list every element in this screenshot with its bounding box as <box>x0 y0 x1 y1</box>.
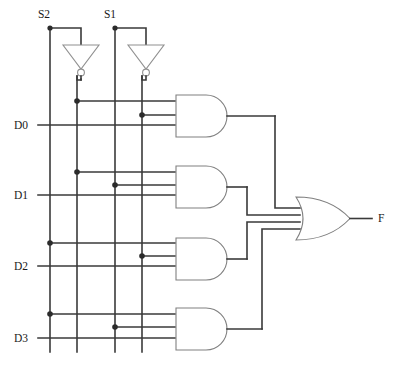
inverter-s2-triangle <box>63 45 99 69</box>
inverter-s1 <box>128 45 164 80</box>
junction-and2-s2c <box>74 169 80 175</box>
or-gate-body <box>296 197 350 240</box>
junction-s2-tap <box>47 25 52 30</box>
logic-diagram-svg: S2 S1 D0 D1 D2 D3 <box>0 0 393 368</box>
and-gate-1-body <box>176 95 227 137</box>
and-gate-4-body <box>176 308 227 350</box>
wire-s1-to-inverter <box>115 28 146 45</box>
label-select-s1: S1 <box>104 8 116 20</box>
junction-s1-tap <box>112 25 117 30</box>
inverter-s2 <box>63 45 99 80</box>
label-data-d3: D3 <box>14 332 28 344</box>
wire-and4-to-or <box>262 229 300 329</box>
wire-s2-to-inverter <box>50 28 81 45</box>
label-data-d0: D0 <box>14 119 28 131</box>
and-gate-4 <box>176 308 262 350</box>
circuit-diagram-canvas: S2 S1 D0 D1 D2 D3 <box>0 0 393 368</box>
and-gate-2 <box>176 166 247 208</box>
or-gate-output <box>296 197 372 240</box>
label-select-s2: S2 <box>38 8 50 20</box>
inverter-s2-bubble <box>78 69 85 76</box>
junction-and4-s2 <box>47 311 53 317</box>
inverter-s1-output-join <box>142 76 146 80</box>
label-output-f: F <box>378 212 384 224</box>
junction-and1-s2c <box>74 98 80 104</box>
label-data-d2: D2 <box>14 260 28 272</box>
junction-and3-s2 <box>47 240 53 246</box>
wire-and3-to-or <box>247 222 300 259</box>
and-gate-2-body <box>176 166 227 208</box>
and-gate-3 <box>176 238 247 280</box>
junction-and4-s1 <box>112 324 118 330</box>
junction-and2-s1 <box>112 182 118 188</box>
wire-and2-to-or <box>247 187 300 215</box>
junction-and1-s1c <box>139 112 145 118</box>
wire-and1-to-or <box>275 116 300 208</box>
and-gate-3-body <box>176 238 227 280</box>
label-data-d1: D1 <box>14 189 28 201</box>
and-gate-1 <box>176 95 275 137</box>
inverter-s1-triangle <box>128 45 164 69</box>
inverter-s1-bubble <box>143 69 150 76</box>
junction-and3-s1c <box>139 253 145 259</box>
